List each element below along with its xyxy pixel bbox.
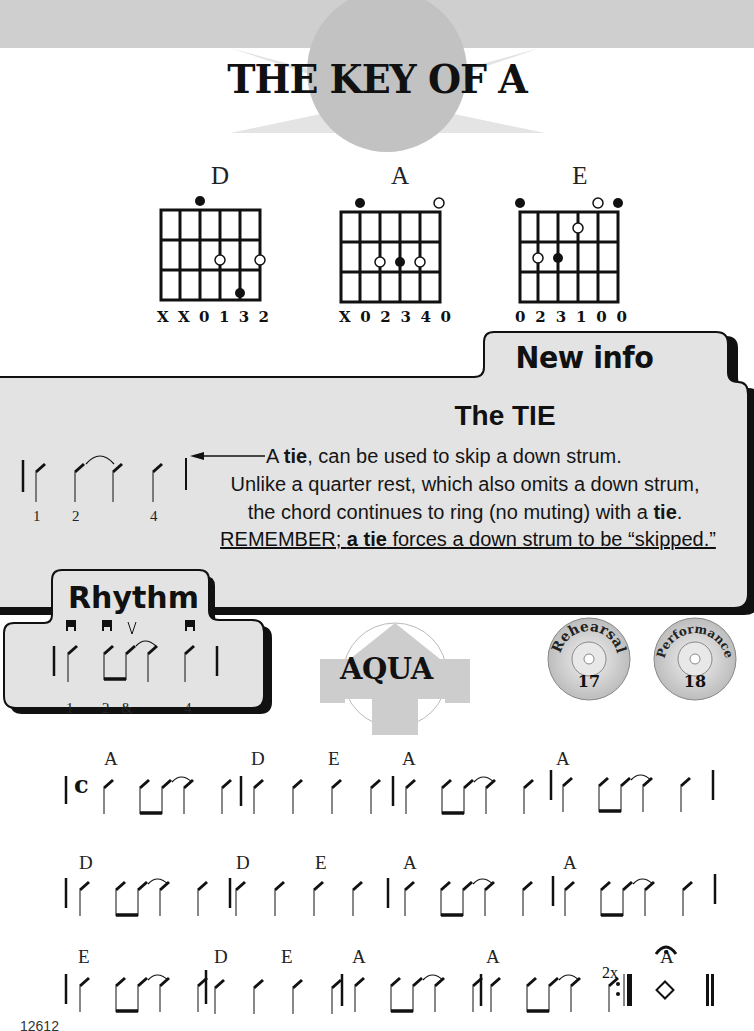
string-6: 0	[441, 308, 451, 326]
string-6: 0	[617, 308, 627, 326]
string-4: 3	[400, 308, 410, 326]
beat-count: 1	[66, 700, 74, 717]
new-info-tab-label: New info	[516, 340, 654, 375]
fretboard-grid	[330, 190, 470, 310]
bold-term: tie	[284, 445, 307, 467]
fretboard-grid	[510, 190, 650, 310]
chord-diagram-a: A X 0 2 3 4 0	[330, 160, 470, 330]
song-title: AQUA	[340, 652, 433, 686]
beat-count: 2	[72, 508, 80, 525]
beat-count: 2	[102, 700, 110, 717]
text: A	[266, 445, 284, 467]
bold-term: a tie	[347, 528, 387, 550]
tie-description-line-3: the chord continues to ring (no muting) …	[200, 498, 730, 526]
text: , can be used to skip a down strum.	[307, 445, 622, 467]
track-number: 18	[652, 672, 738, 691]
chord-diagram-e: E 0 2 3 1 0 0	[510, 160, 650, 330]
beat-count: 4	[184, 700, 192, 717]
page-title: THE KEY OF A	[0, 55, 754, 102]
text: forces a down strum to be “skipped.”	[387, 528, 716, 550]
rhythm-pattern-notation	[0, 620, 270, 700]
tie-description-line-2: Unlike a quarter rest, which also omits …	[200, 470, 730, 498]
text: .	[677, 501, 683, 523]
bold-term: tie	[653, 501, 676, 523]
string-2: 0	[360, 308, 370, 326]
string-1: 0	[515, 308, 525, 326]
rhythm-tab-label: Rhythm	[68, 580, 199, 615]
text: the chord continues to ring (no muting) …	[248, 501, 654, 523]
string-2: X	[178, 308, 190, 326]
fretboard-grid	[150, 190, 290, 310]
string-5: 0	[596, 308, 606, 326]
track-number: 17	[546, 672, 632, 691]
remember-note: REMEMBER; a tie forces a down strum to b…	[200, 528, 736, 551]
fingering-row: 0 2 3 1 0 0	[515, 308, 627, 326]
beat-count: 1	[33, 508, 41, 525]
string-3: 3	[556, 308, 566, 326]
chord-name: A	[330, 162, 470, 190]
string-4: 1	[219, 308, 229, 326]
chord-name: E	[510, 162, 650, 190]
slash-notation-staff	[0, 740, 754, 1031]
chord-name: D	[150, 162, 290, 190]
string-5: 3	[239, 308, 249, 326]
string-3: 0	[199, 308, 209, 326]
chord-diagram-d: D X X 0 1 3 2	[150, 160, 290, 330]
string-1: X	[157, 308, 169, 326]
string-5: 4	[420, 308, 430, 326]
string-4: 1	[576, 308, 586, 326]
rehearsal-cd-badge[interactable]: Rehearsal 17	[546, 616, 632, 702]
string-1: X	[339, 308, 351, 326]
performance-cd-badge[interactable]: Performance 18	[652, 616, 738, 702]
page-number: 12612	[20, 1018, 59, 1031]
beat-count: &	[121, 700, 133, 717]
string-3: 2	[380, 308, 390, 326]
string-2: 2	[535, 308, 545, 326]
string-6: 2	[259, 308, 269, 326]
beat-count: 4	[150, 508, 158, 525]
tie-description-line-1: A tie, can be used to skip a down strum.	[230, 442, 730, 470]
fingering-row: X 0 2 3 4 0	[339, 308, 451, 326]
text: REMEMBER;	[220, 528, 347, 550]
tie-heading: The TIE	[0, 400, 754, 432]
fingering-row: X X 0 1 3 2	[157, 308, 269, 326]
